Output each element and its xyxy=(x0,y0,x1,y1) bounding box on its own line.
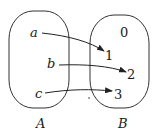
element-c: c xyxy=(35,86,43,101)
set-a-label: A xyxy=(35,116,45,131)
mapping-diagram: a b c A 0 1 2 3 B xyxy=(0,0,156,133)
arrow-c-to-3 xyxy=(45,90,112,93)
element-1: 1 xyxy=(105,48,113,63)
stray-dot xyxy=(88,97,90,99)
arrow-a-to-1 xyxy=(42,33,104,51)
element-0: 0 xyxy=(120,25,128,40)
element-2: 2 xyxy=(127,67,135,82)
element-b: b xyxy=(47,56,55,71)
element-a: a xyxy=(30,25,38,40)
element-3: 3 xyxy=(114,87,122,102)
set-b-label: B xyxy=(117,116,128,131)
